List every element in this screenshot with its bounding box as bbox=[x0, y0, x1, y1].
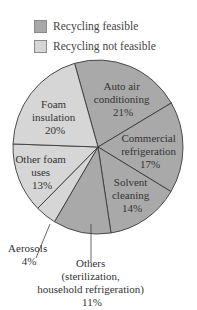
pie-chart: Auto air conditioning 21% Commercial ref… bbox=[0, 0, 197, 310]
label-aerosols: Aerosols 4% bbox=[8, 242, 50, 267]
label-others: Others (sterilization, household refrige… bbox=[37, 257, 146, 308]
